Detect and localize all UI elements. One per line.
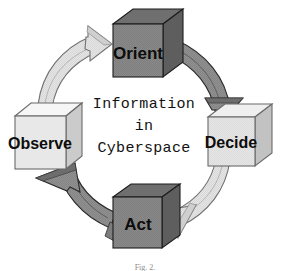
observe-label: Observe	[8, 135, 72, 152]
ooda-diagram-canvas: Orient Decide Act Observe Information in	[0, 0, 291, 271]
orient-label: Orient	[113, 44, 163, 63]
ooda-loop-figure: Orient Decide Act Observe Information in	[0, 0, 291, 271]
decide-label: Decide	[205, 134, 258, 151]
center-text-line-2: in	[135, 118, 154, 135]
node-orient[interactable]: Orient	[113, 9, 183, 77]
figure-caption: Fig. 2.	[135, 263, 156, 271]
center-text-line-1: Information	[93, 96, 195, 113]
node-observe[interactable]: Observe	[8, 103, 82, 169]
node-decide[interactable]: Decide	[205, 104, 272, 166]
center-text-line-3: Cyberspace	[97, 140, 190, 157]
node-act[interactable]: Act	[113, 184, 180, 248]
act-label: Act	[124, 215, 152, 234]
